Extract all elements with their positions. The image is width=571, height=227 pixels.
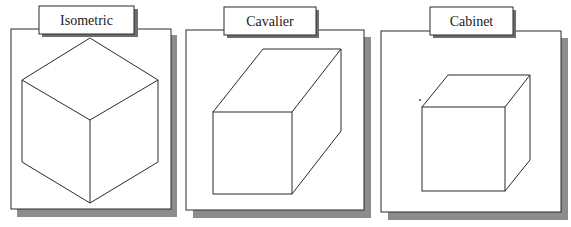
panel-label-cavalier: Cavalier [246, 14, 294, 29]
panel-cavalier: Cavalier [186, 7, 371, 218]
panel-cabinet: Cabinet [381, 7, 568, 220]
panel-label-isometric: Isometric [60, 13, 113, 28]
stray-dot [419, 99, 421, 101]
panel-label-cabinet: Cabinet [450, 14, 494, 29]
projection-diagram: Isometric Cavalier Cabinet [0, 0, 571, 227]
panel-isometric: Isometric [11, 6, 177, 217]
panel-frame [381, 31, 561, 212]
